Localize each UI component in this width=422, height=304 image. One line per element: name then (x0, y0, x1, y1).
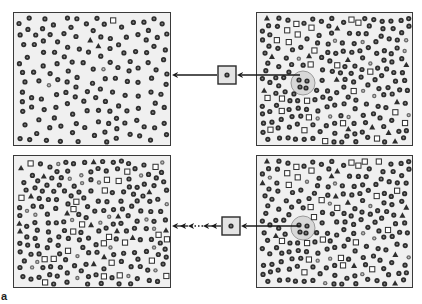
top-connector (172, 66, 300, 84)
figure-label: a (1, 291, 7, 302)
arrowhead-icon (188, 223, 194, 229)
bottom-connector (172, 217, 300, 235)
connectors-layer (0, 0, 422, 304)
